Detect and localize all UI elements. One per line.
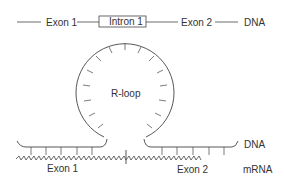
top-exon2-label: Exon 2 [181,17,213,28]
dna-right-segment [144,139,238,147]
top-intron1-label: Intron 1 [109,16,143,27]
r-loop-label: R-loop [111,88,141,99]
lower-dna-strand: DNA [17,139,265,155]
top-exon1-label: Exon 1 [46,17,78,28]
base-pair-ticks [31,147,224,155]
top-gene-schematic: Exon 1 Intron 1 Exon 2 DNA [17,16,265,28]
lower-dna-label: DNA [244,139,265,150]
mrna-wave [16,156,201,160]
r-loop-diagram: Exon 1 Intron 1 Exon 2 DNA R- [0,0,284,183]
mrna-label: mRNA [243,164,273,175]
top-dna-label: DNA [244,17,265,28]
bottom-exon2-label: Exon 2 [177,164,209,175]
mrna-strand: Exon 1 Exon 2 mRNA [16,150,273,175]
r-loop: R-loop [76,43,174,137]
dna-left-segment [17,139,107,147]
r-loop-ticks [83,43,167,128]
bottom-exon1-label: Exon 1 [47,163,79,174]
